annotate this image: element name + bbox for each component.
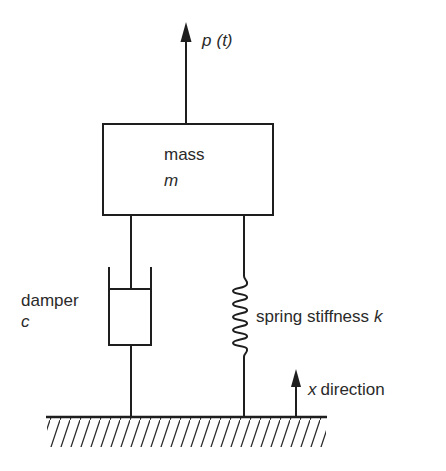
direction-arrow (291, 369, 301, 417)
force-label: p(t) (201, 31, 233, 50)
direction-arrowhead-icon (291, 369, 301, 387)
mass-spring-damper-diagram: p(t) mass m damper c spring stiffnessk x… (0, 0, 446, 471)
mass-block (103, 124, 273, 215)
damper (108, 215, 152, 417)
direction-label: xdirection (307, 380, 385, 399)
force-arrowhead-icon (181, 22, 192, 42)
spring-label: spring stiffnessk (256, 307, 384, 326)
spring (233, 215, 247, 417)
mass-symbol: m (164, 171, 178, 190)
damper-label: damper (21, 291, 79, 310)
mass-label: mass (164, 145, 205, 164)
ground (46, 417, 327, 447)
force-arrow (181, 22, 192, 124)
damper-symbol: c (21, 312, 30, 331)
